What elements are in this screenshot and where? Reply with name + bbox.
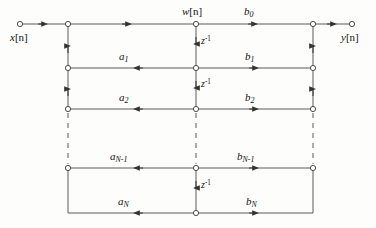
node-center-row1 xyxy=(193,65,198,70)
coefficient-label-b1: b1 xyxy=(245,51,254,64)
coefficient-label-bN: bN xyxy=(246,196,257,209)
coefficient-label-b2: b2 xyxy=(245,92,254,105)
node-center-row2 xyxy=(193,106,198,111)
node-left-rowN-1 xyxy=(65,165,70,170)
delay-label-N: z-1 xyxy=(201,180,211,190)
node-output xyxy=(349,21,354,26)
node-right-top xyxy=(310,21,315,26)
coefficient-label-aN: aN xyxy=(118,196,129,209)
coefficient-label-aN-1: aN-1 xyxy=(110,151,127,164)
flow-graph-canvas xyxy=(0,0,376,228)
node-input xyxy=(17,21,22,26)
output-signal-label: y[n] xyxy=(341,32,359,43)
node-right-rowN-1 xyxy=(310,165,315,170)
coefficient-label-bN-1: bN-1 xyxy=(237,151,254,164)
node-right-row1 xyxy=(310,65,315,70)
coefficient-label-a2: a2 xyxy=(119,92,128,105)
node-right-row2 xyxy=(310,106,315,111)
node-center-rowN xyxy=(193,210,198,215)
node-center-top xyxy=(193,21,198,26)
state-signal-label: w[n] xyxy=(182,6,202,17)
node-center-rowN-1 xyxy=(193,165,198,170)
delay-label-2: z-1 xyxy=(201,79,211,89)
node-left-top xyxy=(65,21,70,26)
coefficient-label-a1: a1 xyxy=(119,51,128,64)
node-left-row1 xyxy=(65,65,70,70)
coefficient-label-b0: b0 xyxy=(244,6,253,19)
input-signal-label: x[n] xyxy=(10,32,28,43)
delay-label-1: z-1 xyxy=(201,36,211,46)
node-left-row2 xyxy=(65,106,70,111)
signal-flow-graph-figure: x[n] y[n] w[n] b0 a1 b1 a2 b2 aN-1 bN-1 … xyxy=(0,0,376,228)
